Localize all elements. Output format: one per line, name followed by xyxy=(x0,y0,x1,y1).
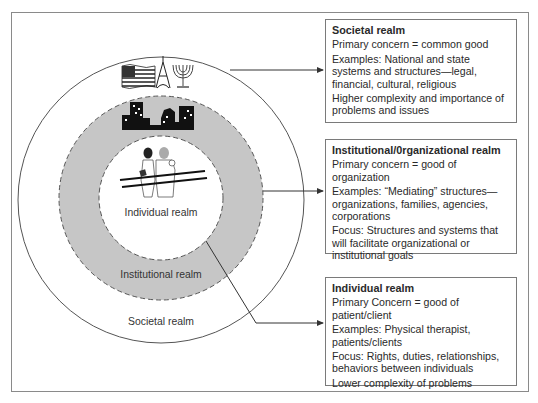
box-line: Focus: Rights, duties, relationships, be… xyxy=(332,350,511,375)
institutional-realm-label: Institutional realm xyxy=(120,269,201,280)
box-line: Primary concern = common good xyxy=(332,38,511,50)
societal-realm-label: Societal realm xyxy=(128,316,194,327)
box-line: Examples: National and state systems and… xyxy=(332,53,511,90)
box-line: Examples: Physical therapist, patients/c… xyxy=(332,323,511,348)
box-title: Institutional/0rganizational realm xyxy=(332,144,511,156)
american-flag-icon xyxy=(122,65,155,89)
individual-realm-box: Individual realm Primary Concern = good … xyxy=(325,277,517,386)
institutional-realm-box: Institutional/0rganizational realm Prima… xyxy=(325,139,517,254)
box-line: Examples: “Mediating” structures—organiz… xyxy=(332,185,511,222)
box-line: Primary concern = good of organization xyxy=(332,158,511,183)
societal-realm-box: Societal realm Primary concern = common … xyxy=(325,19,517,123)
box-title: Societal realm xyxy=(332,24,511,36)
box-line: Primary Concern = good of patient/client xyxy=(332,296,511,321)
box-line: Focus: Structures and systems that will … xyxy=(332,224,511,261)
box-line: Higher complexity and importance of prob… xyxy=(332,92,511,117)
individual-realm-label: Individual realm xyxy=(125,207,198,218)
box-title: Individual realm xyxy=(332,282,511,294)
box-line: Lower complexity of problems xyxy=(332,377,511,389)
